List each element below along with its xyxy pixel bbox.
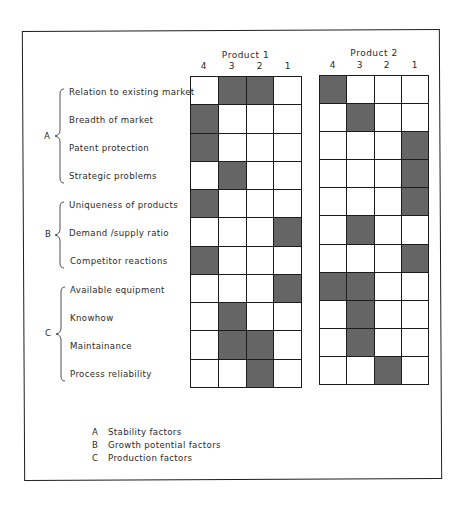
- rating-cell-empty: [347, 132, 374, 160]
- rating-cell-empty: [191, 331, 219, 359]
- factor-label: Process reliability: [70, 370, 152, 379]
- rating-cell-empty: [320, 245, 347, 273]
- product-2-col-1: 1: [401, 61, 428, 70]
- rating-cell-empty: [274, 331, 302, 359]
- rating-cell-empty: [375, 132, 402, 160]
- rating-cell-empty: [375, 104, 402, 132]
- rating-cell-empty: [274, 105, 302, 133]
- rating-cell-empty: [247, 134, 275, 162]
- product-2-col-4: 4: [319, 61, 346, 70]
- rating-cell-empty: [320, 160, 347, 188]
- rating-cell-empty: [320, 329, 347, 357]
- rating-cell-empty: [375, 160, 402, 188]
- legend-text-b: Growth potential factors: [108, 441, 221, 450]
- rating-cell-empty: [247, 247, 275, 275]
- group-letter-c: C: [45, 329, 51, 338]
- rating-cell-shaded: [247, 360, 275, 388]
- rating-cell-empty: [320, 357, 347, 385]
- rating-cell-empty: [219, 247, 247, 275]
- rating-cell-empty: [191, 275, 219, 303]
- rating-cell-empty: [274, 303, 302, 331]
- product-1-rating-grid: [190, 76, 302, 388]
- rating-cell-empty: [219, 275, 247, 303]
- rating-cell-shaded: [219, 77, 247, 105]
- rating-cell-empty: [320, 188, 347, 216]
- rating-cell-empty: [219, 134, 247, 162]
- rating-cell-shaded: [402, 245, 429, 273]
- rating-cell-empty: [375, 216, 402, 244]
- product-2-title: Product 2: [319, 49, 429, 58]
- rating-cell-empty: [219, 190, 247, 218]
- rating-cell-empty: [347, 357, 374, 385]
- factor-label: Knowhow: [70, 314, 114, 323]
- group-letter-a: A: [44, 132, 50, 141]
- rating-cell-shaded: [247, 331, 275, 359]
- rating-cell-empty: [247, 303, 275, 331]
- legend-key-c: C: [92, 454, 98, 463]
- rating-cell-empty: [247, 275, 275, 303]
- rating-cell-empty: [402, 273, 429, 301]
- factor-label: Uniqueness of products: [69, 201, 178, 210]
- rating-cell-empty: [219, 218, 247, 246]
- rating-cell-shaded: [274, 218, 302, 246]
- rating-cell-empty: [402, 301, 429, 329]
- legend-text-c: Production factors: [108, 454, 192, 463]
- rating-cell-empty: [375, 76, 402, 104]
- factor-label: Competitor reactions: [70, 257, 168, 266]
- factor-label: Patent protection: [69, 144, 149, 153]
- rating-cell-empty: [191, 303, 219, 331]
- product-1-col-1: 1: [274, 62, 301, 71]
- factor-label: Relation to existing market: [69, 88, 195, 97]
- factor-label: Available equipment: [70, 286, 165, 295]
- rating-cell-empty: [347, 76, 374, 104]
- rating-cell-empty: [191, 162, 219, 190]
- rating-cell-empty: [402, 76, 429, 104]
- legend-text-a: Stability factors: [108, 428, 182, 437]
- legend-key-b: B: [92, 441, 98, 450]
- rating-cell-empty: [274, 77, 302, 105]
- legend-key-a: A: [92, 428, 98, 437]
- rating-cell-shaded: [402, 132, 429, 160]
- rating-cell-shaded: [191, 134, 219, 162]
- factor-label: Strategic problems: [69, 172, 157, 181]
- rating-cell-shaded: [402, 188, 429, 216]
- rating-cell-empty: [274, 134, 302, 162]
- rating-cell-empty: [320, 132, 347, 160]
- rating-cell-empty: [274, 247, 302, 275]
- rating-cell-empty: [375, 245, 402, 273]
- rating-cell-shaded: [320, 76, 347, 104]
- rating-cell-empty: [191, 218, 219, 246]
- rating-cell-shaded: [402, 160, 429, 188]
- rating-cell-empty: [320, 104, 347, 132]
- rating-cell-empty: [402, 216, 429, 244]
- rating-cell-empty: [219, 360, 247, 388]
- rating-cell-empty: [375, 329, 402, 357]
- rating-cell-empty: [191, 77, 219, 105]
- rating-cell-shaded: [347, 329, 374, 357]
- product-2-rating-grid: [319, 75, 429, 385]
- rating-cell-empty: [247, 190, 275, 218]
- rating-cell-empty: [347, 188, 374, 216]
- product-1-col-4: 4: [190, 62, 217, 71]
- rating-cell-empty: [247, 105, 275, 133]
- brace-group-a-icon: [54, 88, 68, 184]
- rating-cell-shaded: [347, 216, 374, 244]
- factor-label: Demand /supply ratio: [69, 229, 169, 238]
- rating-cell-empty: [375, 273, 402, 301]
- rating-cell-empty: [247, 218, 275, 246]
- rating-cell-empty: [347, 245, 374, 273]
- rating-cell-empty: [375, 188, 402, 216]
- rating-cell-shaded: [347, 104, 374, 132]
- factor-label: Breadth of market: [69, 116, 153, 125]
- rating-cell-empty: [402, 104, 429, 132]
- rating-cell-shaded: [247, 77, 275, 105]
- rating-cell-shaded: [191, 105, 219, 133]
- product-2-col-2: 2: [373, 61, 400, 70]
- rating-cell-shaded: [375, 357, 402, 385]
- product-1-title: Product 1: [190, 51, 301, 60]
- rating-cell-empty: [247, 162, 275, 190]
- brace-group-c-icon: [55, 286, 69, 382]
- product-1-col-3: 3: [218, 62, 245, 71]
- rating-cell-empty: [347, 160, 374, 188]
- brace-group-b-icon: [54, 201, 68, 269]
